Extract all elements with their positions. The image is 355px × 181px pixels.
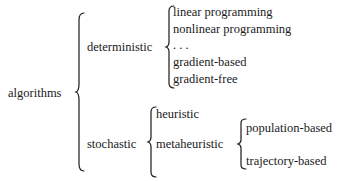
node-heuristic: heuristic [156,107,199,121]
leaf-trajectory-based: trajectory-based [246,154,327,168]
leaf-nonlinear-programming: nonlinear programming [173,22,291,36]
leaf-gradient-free: gradient-free [173,72,238,86]
leaf-linear-programming: linear programming [173,5,273,19]
leaf-gradient-based: gradient-based [173,55,247,69]
node-stochastic: stochastic [87,137,136,151]
node-algorithms: algorithms [8,86,61,100]
node-deterministic: deterministic [87,40,152,54]
brace-algorithms [76,12,86,172]
leaf-population-based: population-based [246,121,332,135]
leaf-ellipsis: . . . [173,38,189,52]
node-metaheuristic: metaheuristic [156,137,223,151]
